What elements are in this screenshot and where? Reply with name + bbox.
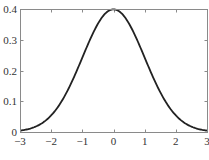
series-line-normal-pdf [20, 9, 207, 130]
x-tick-label: −1 [76, 135, 88, 147]
x-tick-label: 2 [173, 135, 179, 147]
x-tick-label: 0 [111, 135, 117, 147]
x-tick-label: 3 [204, 135, 209, 147]
tick-labels: −3−2−1012300.10.20.30.4 [3, 3, 209, 147]
plot-frame [21, 10, 208, 133]
y-tick-label: 0.2 [3, 65, 17, 77]
chart: −3−2−1012300.10.20.30.4 [0, 0, 209, 160]
y-tick-label: 0.1 [3, 95, 17, 107]
ticks [21, 10, 208, 133]
x-tick-label: 1 [142, 135, 148, 147]
y-tick-label: 0.4 [3, 3, 17, 15]
y-tick-label: 0.3 [3, 34, 17, 46]
x-tick-label: −2 [45, 135, 57, 147]
y-tick-label: 0 [12, 126, 18, 138]
